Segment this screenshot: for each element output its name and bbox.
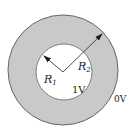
label-outer-potential: 0V: [114, 94, 127, 104]
annulus-diagram: R1 R2 1V 0V: [0, 0, 137, 134]
label-inner-potential: 1V: [72, 84, 86, 95]
